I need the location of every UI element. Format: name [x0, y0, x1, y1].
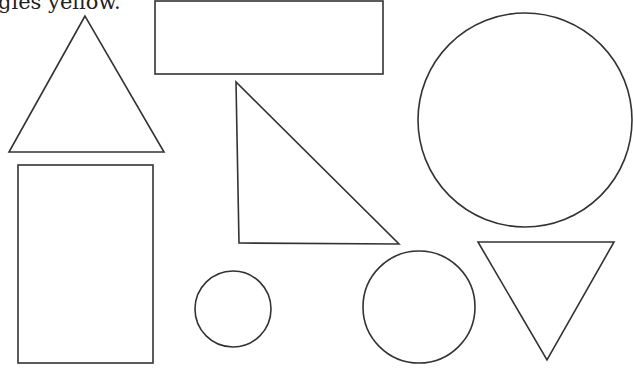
- circle-small[interactable]: [195, 271, 271, 347]
- shapes-canvas: [0, 0, 633, 369]
- triangle-inverted[interactable]: [478, 242, 614, 360]
- circle-large[interactable]: [418, 13, 632, 227]
- rectangle-wide[interactable]: [155, 1, 383, 74]
- triangle-upright[interactable]: [9, 16, 164, 152]
- rectangle-tall[interactable]: [18, 165, 153, 363]
- worksheet-page: gles yellow.: [0, 0, 633, 369]
- circle-medium[interactable]: [363, 251, 475, 363]
- triangle-right[interactable]: [236, 82, 399, 244]
